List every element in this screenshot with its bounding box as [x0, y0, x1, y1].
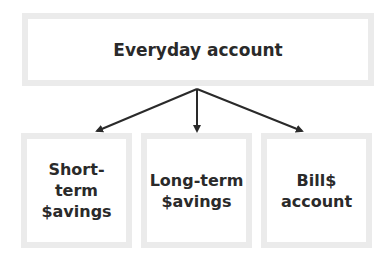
- child-node-label: Short-term $avings: [27, 159, 126, 222]
- child-node-label: Long-term $avings: [150, 170, 244, 212]
- child-node-bills-account: Bill$ account: [261, 133, 372, 248]
- child-node-label: Bill$ account: [281, 170, 352, 212]
- child-node-short-term-savings: Short-term $avings: [21, 133, 132, 248]
- child-node-long-term-savings: Long-term $avings: [141, 133, 252, 248]
- arrow-to-bills: [197, 89, 302, 131]
- arrow-to-short-term: [97, 89, 197, 131]
